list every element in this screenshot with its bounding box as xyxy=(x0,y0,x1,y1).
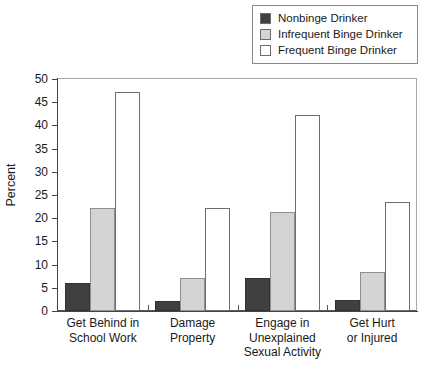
y-axis-tick xyxy=(52,241,57,242)
y-axis-tick-label: 5 xyxy=(0,282,48,294)
bar xyxy=(115,92,140,311)
legend-swatch-icon-frequent-binge xyxy=(260,45,271,56)
y-axis-tick xyxy=(52,265,57,266)
bar xyxy=(245,278,270,311)
y-axis-tick-label-text: 35 xyxy=(4,143,48,155)
y-axis-tick xyxy=(52,311,57,312)
legend-swatch-icon-nonbinge xyxy=(260,13,271,24)
bar xyxy=(270,212,295,311)
y-axis-tick-label: 40 xyxy=(0,119,48,131)
y-axis-tick-label-text: 45 xyxy=(4,96,48,108)
y-axis-tick-label: 35 xyxy=(0,143,48,155)
y-axis-tick-label: 30 xyxy=(0,166,48,178)
y-axis-tick-label-text: 25 xyxy=(4,189,48,201)
bar xyxy=(65,283,90,311)
y-axis-tick-label-text: 40 xyxy=(4,119,48,131)
bar-chart: Nonbinge Drinker Infrequent Binge Drinke… xyxy=(0,0,426,371)
legend-label-nonbinge: Nonbinge Drinker xyxy=(278,10,368,26)
y-axis-tick-label: 15 xyxy=(0,235,48,247)
y-axis-tick-label-text: 50 xyxy=(4,73,48,85)
y-axis-tick-label: 0 xyxy=(0,305,48,317)
legend-item-nonbinge: Nonbinge Drinker xyxy=(260,10,410,26)
y-axis-tick xyxy=(52,149,57,150)
y-axis-tick xyxy=(52,172,57,173)
bar xyxy=(205,208,230,311)
y-axis-tick xyxy=(52,102,57,103)
y-axis-tick xyxy=(52,79,57,80)
y-axis-tick xyxy=(52,288,57,289)
y-axis-tick-label-text: 5 xyxy=(4,282,48,294)
y-axis-tick-label-text: 20 xyxy=(4,212,48,224)
y-axis-tick-label-text: 10 xyxy=(4,259,48,271)
y-axis-tick-label: 45 xyxy=(0,96,48,108)
bar xyxy=(360,272,385,311)
y-axis-tick-label: 10 xyxy=(0,259,48,271)
y-axis-tick xyxy=(52,125,57,126)
y-axis-tick-label-text: 30 xyxy=(4,166,48,178)
y-axis-tick-label: 50 xyxy=(0,73,48,85)
y-axis-tick-label-text: 0 xyxy=(4,305,48,317)
legend-swatch-icon-infrequent-binge xyxy=(260,29,271,40)
legend-item-infrequent-binge: Infrequent Binge Drinker xyxy=(260,26,410,42)
bar xyxy=(180,278,205,311)
legend-label-infrequent-binge: Infrequent Binge Drinker xyxy=(278,26,403,42)
bar xyxy=(295,115,320,311)
y-axis-tick-label-text: 15 xyxy=(4,235,48,247)
y-axis-tick-label: 20 xyxy=(0,212,48,224)
y-axis-tick xyxy=(52,195,57,196)
bar xyxy=(385,202,410,311)
legend-label-frequent-binge: Frequent Binge Drinker xyxy=(278,42,397,58)
bars-layer xyxy=(58,79,417,311)
bar xyxy=(155,301,180,311)
x-axis-category-label: Get Hurt or Injured xyxy=(315,316,426,345)
bar xyxy=(335,300,360,311)
bar xyxy=(90,208,115,311)
x-axis-line xyxy=(57,311,418,312)
chart-legend: Nonbinge Drinker Infrequent Binge Drinke… xyxy=(252,5,418,64)
y-axis-tick-label: 25 xyxy=(0,189,48,201)
y-axis-title: Percent xyxy=(4,155,18,215)
legend-item-frequent-binge: Frequent Binge Drinker xyxy=(260,42,410,58)
y-axis-tick xyxy=(52,218,57,219)
